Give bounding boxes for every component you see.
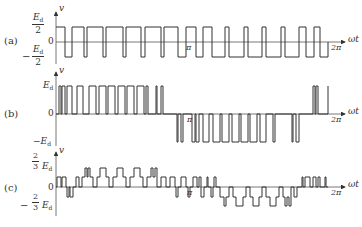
- panel-a-label: (a): [4, 36, 18, 46]
- panel-c-top-tick: Ed: [42, 162, 52, 172]
- panel-c-y-axis-label: v: [59, 146, 64, 155]
- panel-c-pi-label: π: [187, 189, 192, 197]
- panel-b-top-tick: Ed: [43, 81, 53, 91]
- panel-a-bottom-sign: −: [22, 52, 30, 62]
- panel-a-x-axis-label: ωt: [348, 35, 359, 44]
- panel-b-y-axis-label: v: [59, 66, 64, 75]
- panel-a-y-axis-label: v: [59, 4, 64, 13]
- panel-c-x-axis-label: ωt: [348, 180, 359, 189]
- panel-b-waveform-positive: [56, 86, 165, 114]
- panel-a-axes: [56, 12, 345, 64]
- panel-b-pi-label: π: [187, 116, 192, 124]
- panel-b-2pi-label: 2π: [331, 116, 341, 124]
- panel-c-top-tick-fraction: 2 3: [32, 152, 39, 171]
- panel-a-top-tick: Ed 2: [32, 13, 44, 35]
- panel-b-label: (b): [4, 109, 18, 119]
- panel-b-bottom-tick: −Ed: [33, 137, 51, 147]
- panel-c-label: (c): [4, 183, 17, 193]
- panel-c-bottom-tick: Ed: [42, 201, 52, 211]
- panel-b-x-axis-label: ωt: [348, 107, 359, 116]
- panel-a-2pi-label: 2π: [331, 44, 341, 52]
- panel-b-zero-tick: 0: [48, 109, 54, 118]
- panel-c-bottom-tick-fraction: 2 3: [32, 193, 39, 212]
- panel-c-zero-tick: 0: [48, 183, 54, 192]
- panel-c-bottom-sign: −: [20, 201, 28, 211]
- panel-c-2pi-label: 2π: [331, 189, 341, 197]
- panel-b-waveform-positive-end: [312, 86, 328, 114]
- waveform-diagram: [0, 0, 362, 227]
- panel-a-bottom-tick: Ed 2: [32, 45, 44, 67]
- panel-a-zero-tick: 0: [48, 37, 54, 46]
- panel-a-pi-label: π: [186, 44, 191, 52]
